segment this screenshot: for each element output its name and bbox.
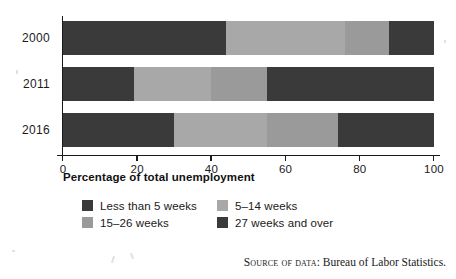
x-axis-title: Percentage of total unemployment — [63, 171, 255, 183]
figure-stacked-bar-chart: 0 20 40 60 80 100 2000 2011 2016 — [0, 0, 456, 279]
bar-segment-2016-15-26-weeks — [267, 113, 338, 147]
source-text: Bureau of Labor Statistics. — [323, 256, 446, 268]
category-label-2000: 2000 — [22, 31, 50, 45]
x-tick-label-80: 80 — [353, 163, 366, 175]
x-axis-line — [57, 155, 440, 156]
legend-swatch-15-26-weeks — [82, 217, 93, 228]
legend-row-1: Less than 5 weeks 5–14 weeks — [82, 197, 382, 214]
scan-speck — [16, 70, 18, 74]
bar-segment-2016-27-weeks-and-over — [338, 113, 435, 147]
x-tick-0 — [62, 155, 63, 161]
legend-label-27-weeks-and-over: 27 weeks and over — [235, 217, 333, 229]
chart-legend: Less than 5 weeks 5–14 weeks 15–26 weeks… — [82, 197, 382, 231]
scan-speck — [130, 253, 134, 259]
source-of-data-note: Source of data: Bureau of Labor Statisti… — [244, 256, 446, 268]
legend-item-27-weeks-and-over: 27 weeks and over — [217, 217, 333, 229]
legend-swatch-27-weeks-and-over — [217, 217, 228, 228]
bar-segment-2000-27-weeks-and-over — [389, 21, 434, 55]
legend-swatch-5-14-weeks — [217, 200, 228, 211]
bar-segment-2000-5-14-weeks — [226, 21, 345, 55]
bar-row-2011: 2011 — [63, 67, 434, 101]
x-tick-100 — [433, 155, 434, 161]
scan-speck — [444, 40, 446, 43]
bar-segment-2011-15-26-weeks — [211, 67, 267, 101]
scan-speck — [111, 256, 115, 263]
bar-row-2016: 2016 — [63, 113, 434, 147]
x-tick-60 — [285, 155, 286, 161]
bar-segment-2011-27-weeks-and-over — [267, 67, 434, 101]
legend-item-5-14-weeks: 5–14 weeks — [217, 200, 297, 212]
legend-row-2: 15–26 weeks 27 weeks and over — [82, 214, 382, 231]
x-tick-80 — [359, 155, 360, 161]
bar-segment-2011-5-14-weeks — [134, 67, 212, 101]
bar-segment-2016-5-14-weeks — [174, 113, 267, 147]
x-tick-label-100: 100 — [424, 163, 444, 175]
legend-item-15-26-weeks: 15–26 weeks — [82, 217, 217, 229]
x-tick-label-60: 60 — [279, 163, 292, 175]
bar-row-2000: 2000 — [63, 21, 434, 55]
x-tick-40 — [210, 155, 211, 161]
plot-area: 0 20 40 60 80 100 2000 2011 2016 — [63, 16, 434, 155]
bar-segment-2000-15-26-weeks — [345, 21, 390, 55]
bar-segment-2000-less-than-5-weeks — [63, 21, 226, 55]
legend-label-15-26-weeks: 15–26 weeks — [100, 217, 169, 229]
x-tick-20 — [136, 155, 137, 161]
legend-label-less-than-5-weeks: Less than 5 weeks — [100, 200, 197, 212]
legend-label-5-14-weeks: 5–14 weeks — [235, 200, 297, 212]
category-label-2011: 2011 — [23, 77, 50, 91]
scan-speck — [12, 250, 15, 252]
bar-segment-2016-less-than-5-weeks — [63, 113, 174, 147]
legend-swatch-less-than-5-weeks — [82, 200, 93, 211]
bar-segment-2011-less-than-5-weeks — [63, 67, 134, 101]
category-label-2016: 2016 — [22, 123, 50, 137]
source-prefix: Source of data — [244, 256, 317, 268]
legend-item-less-than-5-weeks: Less than 5 weeks — [82, 200, 217, 212]
